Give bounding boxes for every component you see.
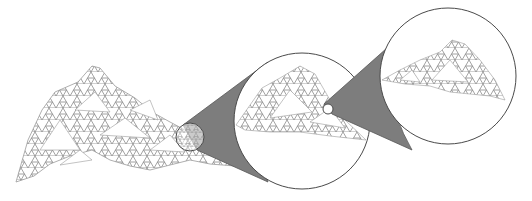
figure-canvas xyxy=(0,0,532,201)
magnified-view-2 xyxy=(380,8,516,144)
lens-circle-2 xyxy=(323,104,333,114)
fractal-zoom-figure xyxy=(0,0,532,201)
